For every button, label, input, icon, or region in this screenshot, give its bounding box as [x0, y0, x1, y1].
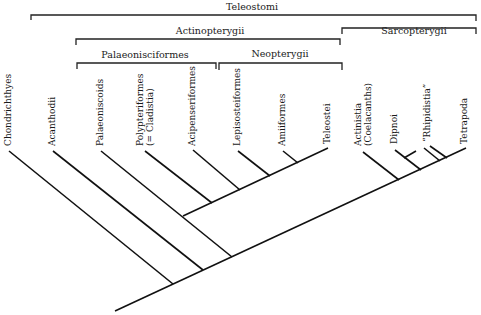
branch-amiiformes [283, 151, 298, 163]
taxon-label-polypteriformes-sub: (= Cladistia) [145, 88, 155, 146]
taxon-label-polypteriformes: Polypteriformes [135, 73, 145, 146]
taxon-label-actinistia-sub: (Coelacanths) [363, 83, 373, 146]
group-label-neopterygii: Neopterygii [251, 48, 308, 59]
taxon-label-amiiformes: Amiiformes [277, 93, 287, 147]
branch-lepisosteiformes [238, 151, 270, 176]
branch-dipnoi [395, 150, 421, 170]
group-label-palaeonisciformes: Palaeonisciformes [101, 49, 188, 60]
branch-acipenseriformes [193, 150, 240, 190]
bracket-neopterygii: Neopterygii [219, 48, 342, 70]
taxon-label-teleostei: Teleostei [322, 103, 332, 144]
bracket-teleostomi: Teleostomi [31, 1, 476, 21]
taxon-label-acipenseriformes: Acipenseriformes [187, 66, 197, 147]
group-label-sarcopterygii: Sarcopterygii [381, 25, 446, 36]
cladogram: Teleostomi Actinopterygii Sarcopterygii … [0, 0, 481, 315]
taxon-labels: Chondrichthyes Acanthodii Palaeoniscoids… [3, 66, 469, 147]
group-label-teleostomi: Teleostomi [226, 1, 278, 12]
group-label-actinopterygii: Actinopterygii [175, 25, 244, 36]
taxon-label-acanthodii: Acanthodii [47, 97, 57, 147]
branch-main-spine [115, 148, 466, 311]
tree-branches [9, 146, 466, 311]
bracket-palaeonisciformes: Palaeonisciformes [77, 49, 216, 69]
branch-dipnoi-stub [404, 151, 416, 158]
taxon-label-palaeoniscoids: Palaeoniscoids [95, 79, 105, 146]
branch-neopterygii-spine [183, 148, 328, 216]
branch-acanthodii [53, 151, 203, 270]
taxon-label-dipnoi: Dipnoi [389, 114, 399, 144]
taxon-label-rhipidistia: “Rhipidistia” [422, 84, 432, 142]
bracket-actinopterygii: Actinopterygii [76, 25, 340, 45]
bracket-sarcopterygii: Sarcopterygii [342, 25, 476, 36]
branch-rhipidistia-b [430, 146, 447, 158]
branch-chondrichthyes [9, 151, 173, 284]
taxon-label-actinistia: Actinistia [353, 102, 363, 147]
taxon-label-chondrichthyes: Chondrichthyes [3, 74, 13, 147]
taxon-label-tetrapoda: Tetrapoda [459, 97, 469, 144]
taxon-label-lepisosteiformes: Lepisosteiformes [232, 68, 242, 146]
branch-rhipidistia-a [424, 148, 440, 161]
branch-actinistia [363, 152, 399, 180]
